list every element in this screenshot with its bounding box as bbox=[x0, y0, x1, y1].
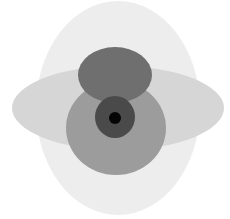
center-black-dot bbox=[109, 112, 121, 124]
concentric-ellipses-diagram bbox=[0, 0, 230, 219]
diagram-canvas bbox=[0, 0, 230, 219]
upper-dark-ellipse bbox=[78, 47, 152, 103]
